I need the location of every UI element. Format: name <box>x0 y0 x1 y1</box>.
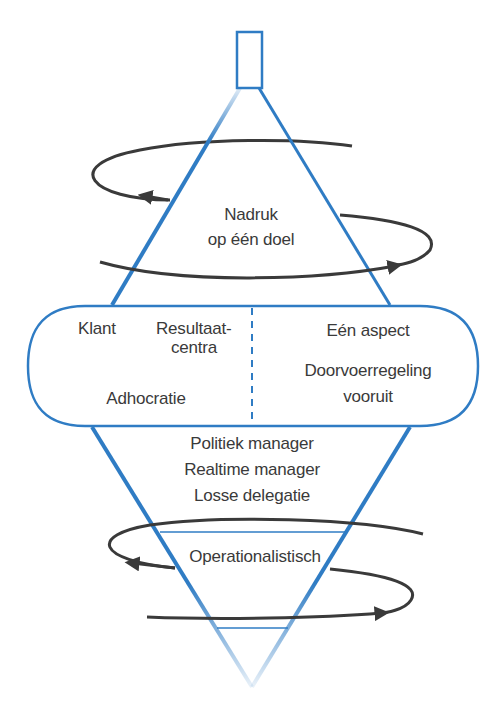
capsule-label-adhocratie: Adhocratie <box>106 388 185 410</box>
upper-loop-front-bottom <box>100 262 395 278</box>
top-label-line1: Nadruk <box>224 204 278 226</box>
capsule-label-doorvoer-line2: vooruit <box>343 386 393 408</box>
middle-label-politiek: Politiek manager <box>190 433 313 455</box>
top-label-line2: op één doel <box>208 229 295 251</box>
capsule-label-resultaat-line2: centra <box>171 337 217 359</box>
upper-loop-front-right <box>340 215 432 265</box>
middle-label-realtime: Realtime manager <box>184 459 320 481</box>
top-rectangle <box>237 32 262 88</box>
upper-loop-back <box>93 140 352 200</box>
middle-label-delegatie: Losse delegatie <box>194 485 310 507</box>
lower-loop-front-right <box>330 569 413 613</box>
capsule-label-een-aspect: Eén aspect <box>326 320 409 342</box>
lower-loop-front-bottom <box>147 613 382 618</box>
capsule-label-doorvoer-line1: Doorvoerregeling <box>304 360 431 382</box>
bottom-label-operationalistisch: Operationalistisch <box>189 546 321 568</box>
capsule-label-klant: Klant <box>78 318 116 340</box>
upper-right-edge <box>259 88 390 305</box>
